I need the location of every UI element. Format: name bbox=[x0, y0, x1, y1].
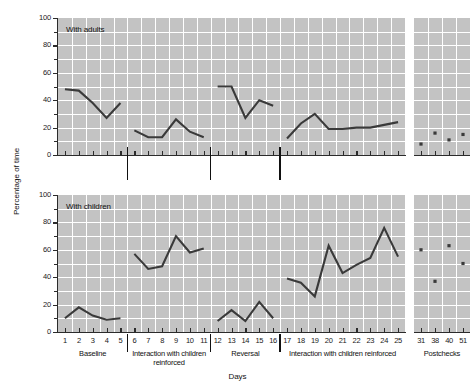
phase-label: Reversal bbox=[211, 349, 280, 358]
data-point bbox=[447, 138, 450, 141]
data-point bbox=[433, 131, 436, 134]
data-line-top bbox=[134, 119, 203, 137]
data-line-bottom bbox=[134, 236, 203, 269]
data-point bbox=[419, 142, 422, 145]
phase-label: Postchecks bbox=[414, 349, 470, 358]
data-point bbox=[447, 244, 450, 247]
phase-label: Interaction with children reinforced bbox=[280, 349, 405, 358]
phase-divider bbox=[127, 147, 129, 180]
phase-label: Interaction with children reinforced bbox=[127, 349, 210, 367]
data-point bbox=[461, 262, 464, 265]
data-point bbox=[419, 248, 422, 251]
data-line-bottom bbox=[65, 307, 121, 319]
phase-label: Baseline bbox=[58, 349, 127, 358]
chart-figure: Percentage of time Days 0204060801000204… bbox=[0, 0, 475, 383]
data-line-bottom bbox=[287, 228, 398, 297]
phase-divider bbox=[210, 147, 212, 180]
data-line-top bbox=[218, 87, 274, 119]
data-point bbox=[461, 133, 464, 136]
x-tick-label: 51 bbox=[455, 336, 471, 345]
phase-divider bbox=[279, 147, 281, 180]
data-series-layer bbox=[0, 0, 475, 383]
x-tick-label: 25 bbox=[390, 336, 406, 345]
data-line-bottom bbox=[218, 302, 274, 321]
data-line-top bbox=[287, 114, 398, 139]
data-line-top bbox=[65, 89, 121, 118]
data-point bbox=[433, 280, 436, 283]
